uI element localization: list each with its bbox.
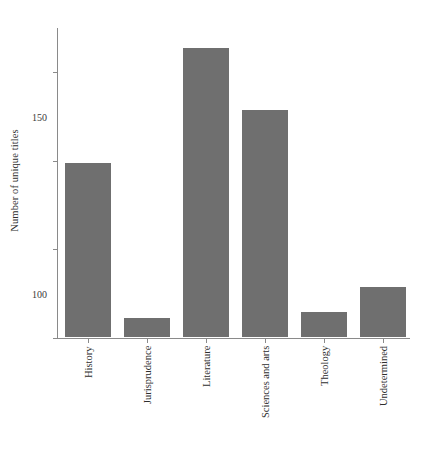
y-axis-tick: 50 <box>53 249 57 250</box>
bar <box>65 163 111 337</box>
y-axis-line <box>57 28 58 339</box>
x-axis-tick <box>324 339 325 343</box>
bar <box>301 312 347 337</box>
y-axis-tick-label: 100 <box>32 288 47 299</box>
x-axis-tick-label-text: Undetermined <box>378 346 389 406</box>
y-axis-tick: 0 <box>53 338 57 339</box>
x-axis-tick <box>147 339 148 343</box>
y-axis-tick: 100 <box>53 161 57 162</box>
bar <box>124 318 170 337</box>
y-axis-tick-label: 150 <box>32 111 47 122</box>
bar <box>242 110 288 337</box>
plot-area: 050100150 HistoryJurisprudenceLiterature… <box>57 28 410 338</box>
y-axis-title: Number of unique titles <box>0 0 28 360</box>
x-axis-line <box>57 338 410 339</box>
x-axis-tick <box>383 339 384 343</box>
bar-chart-figure: Number of unique titles 050100150 Histor… <box>0 0 436 451</box>
bar <box>360 287 406 337</box>
x-axis-tick-label-text: Sciences and arts <box>260 346 271 418</box>
x-axis-tick <box>265 339 266 343</box>
y-axis-tick: 150 <box>53 72 57 73</box>
bar <box>183 48 229 337</box>
x-axis-tick-label-text: Theology <box>319 346 330 386</box>
x-axis-tick-label-text: Jurisprudence <box>142 346 153 404</box>
x-axis-tick-label-text: Literature <box>201 346 212 387</box>
x-axis-tick-label-text: History <box>83 347 94 379</box>
x-axis-tick <box>88 339 89 343</box>
x-axis-tick <box>206 339 207 343</box>
y-axis-title-text: Number of unique titles <box>9 129 20 231</box>
